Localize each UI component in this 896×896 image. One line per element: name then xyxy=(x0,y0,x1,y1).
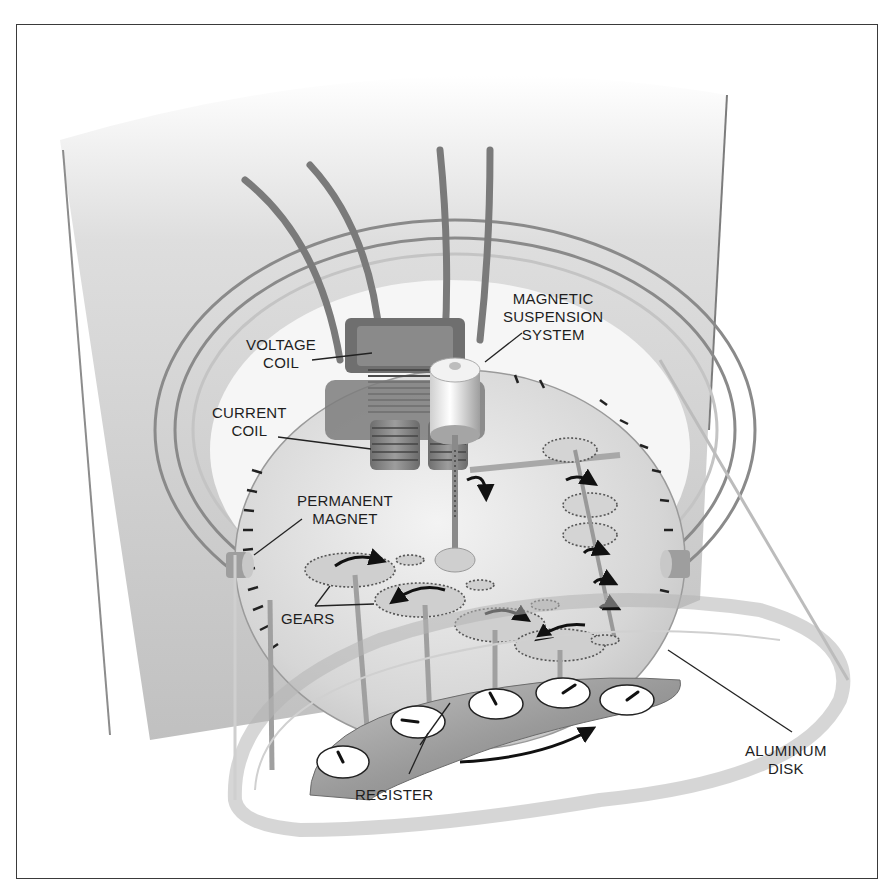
label-permanent-magnet: PERMANENT MAGNET xyxy=(297,492,393,528)
label-line: ALUMINUM xyxy=(745,742,827,760)
label-voltage-coil: VOLTAGE COIL xyxy=(246,336,316,372)
label-line: CURRENT xyxy=(212,404,287,422)
label-aluminum-disk: ALUMINUM DISK xyxy=(745,742,827,778)
spindle-hub xyxy=(435,548,475,572)
label-line: DISK xyxy=(745,760,827,778)
label-line: MAGNETIC xyxy=(503,290,603,308)
label-current-coil: CURRENT COIL xyxy=(212,404,287,440)
label-magnetic-suspension-system: MAGNETIC SUSPENSION SYSTEM xyxy=(503,290,603,344)
magnetic-suspension-shape xyxy=(430,358,480,445)
label-line: SYSTEM xyxy=(503,326,603,344)
label-line: COIL xyxy=(246,354,316,372)
label-line: REGISTER xyxy=(355,786,433,804)
label-line: COIL xyxy=(212,422,287,440)
label-gears: GEARS xyxy=(281,610,335,628)
label-line: GEARS xyxy=(281,610,335,628)
label-line: PERMANENT xyxy=(297,492,393,510)
label-line: VOLTAGE xyxy=(246,336,316,354)
label-line: SUSPENSION xyxy=(503,308,603,326)
label-line: MAGNET xyxy=(297,510,393,528)
label-register: REGISTER xyxy=(355,786,433,804)
